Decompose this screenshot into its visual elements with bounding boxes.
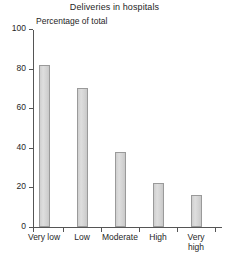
y-axis-line xyxy=(33,30,34,228)
bar-very-high xyxy=(191,195,202,227)
y-tick-label-100: 100 xyxy=(12,23,26,33)
y-tick-60: 60 xyxy=(29,108,33,109)
bar-low xyxy=(77,88,88,227)
y-tick-label-0: 0 xyxy=(21,221,26,231)
bar-very-low xyxy=(39,65,50,227)
y-tick-20: 20 xyxy=(29,187,33,188)
x-axis-line xyxy=(33,227,222,228)
category-label-very-high: Very high xyxy=(173,232,219,252)
y-tick-label-40: 40 xyxy=(17,142,26,152)
y-axis-label: Percentage of total xyxy=(36,16,107,26)
y-tick-label-20: 20 xyxy=(17,181,26,191)
y-tick-100: 100 xyxy=(29,29,33,30)
y-tick-label-80: 80 xyxy=(17,63,26,73)
plot-area: 0 20 40 60 80 100 xyxy=(33,30,222,228)
y-tick-80: 80 xyxy=(29,69,33,70)
y-tick-label-60: 60 xyxy=(17,102,26,112)
bar-moderate xyxy=(115,152,126,227)
bar-high xyxy=(153,183,164,227)
y-tick-40: 40 xyxy=(29,148,33,149)
bar-chart: Deliveries in hospitals Percentage of to… xyxy=(0,0,229,270)
chart-title: Deliveries in hospitals xyxy=(0,2,229,12)
